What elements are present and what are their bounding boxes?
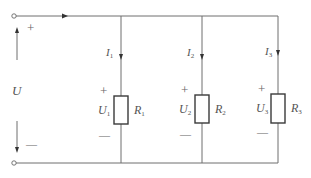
plus-sign: + (100, 83, 107, 98)
terminal-top (12, 14, 16, 18)
branch-2: I2 + U2 — R2 (179, 16, 226, 163)
current-arrow-icon (200, 54, 204, 60)
top-wire-arrow-icon (62, 14, 68, 19)
minus-sign: — (98, 129, 111, 141)
resistor-label: R3 (290, 101, 302, 116)
branch-3: I3 + U3 — R3 (256, 16, 302, 163)
branch-1: I1 + U1 — R1 (98, 16, 145, 163)
minus-sign: — (179, 128, 192, 140)
source-minus: — (25, 138, 38, 150)
circuit-diagram: + U — I1 + U1 — R1 I2 + U2 — R2 I3 + U3 … (0, 0, 311, 178)
resistor-r3 (271, 94, 285, 123)
terminal-bottom (12, 161, 16, 165)
voltage-label: U2 (179, 102, 192, 117)
current-label: I3 (264, 45, 273, 59)
resistor-label: R2 (214, 102, 226, 117)
source-label: U (12, 83, 23, 98)
arrow-up-icon (15, 27, 19, 33)
resistor-r2 (195, 95, 209, 123)
plus-sign: + (258, 81, 265, 96)
current-label: I1 (105, 46, 114, 60)
arrow-down-icon (15, 147, 19, 153)
current-arrow-icon (276, 50, 280, 56)
resistor-r1 (114, 96, 128, 124)
current-label: I2 (186, 46, 195, 60)
voltage-label: U1 (98, 103, 111, 118)
resistor-label: R1 (133, 103, 145, 118)
current-arrow-icon (119, 54, 123, 60)
source-plus: + (27, 20, 34, 35)
voltage-label: U3 (256, 101, 269, 116)
plus-sign: + (181, 82, 188, 97)
minus-sign: — (256, 126, 269, 138)
